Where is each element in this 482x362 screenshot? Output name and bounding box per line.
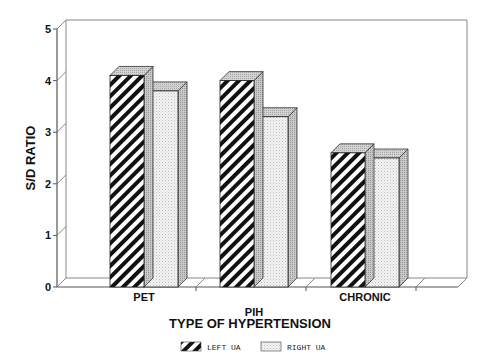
bar-group-pih <box>220 72 297 287</box>
legend-swatch <box>261 342 281 351</box>
legend-swatch <box>181 342 201 351</box>
legend-label: LEFT UA <box>207 343 241 352</box>
bar-group-pet <box>110 66 187 287</box>
bar-left-ua <box>331 144 374 287</box>
y-tick-label: 5 <box>45 23 51 35</box>
legend: LEFT UARIGHT UA <box>181 342 326 352</box>
y-axis-title: S/D RATIO <box>23 126 38 191</box>
legend-label: RIGHT UA <box>287 343 326 352</box>
legend-item-right-ua: RIGHT UA <box>261 342 326 352</box>
y-tick-label: 3 <box>45 126 51 138</box>
x-tick-label-pet: PET <box>133 291 155 303</box>
bars <box>110 66 408 287</box>
bar-chart: 012345 PETPIHCHRONIC S/D RATIO TYPE OF H… <box>0 0 482 362</box>
x-tick-label-chronic: CHRONIC <box>339 291 390 303</box>
y-axis: 012345 <box>45 20 66 293</box>
y-tick-label: 1 <box>45 229 51 241</box>
y-tick-label: 4 <box>45 75 52 87</box>
y-tick-label: 0 <box>45 281 51 293</box>
y-tick-label: 2 <box>45 178 51 190</box>
legend-item-left-ua: LEFT UA <box>181 342 241 352</box>
bar-left-ua <box>110 66 153 287</box>
bar-left-ua <box>220 72 263 287</box>
bar-group-chronic <box>331 144 408 287</box>
x-axis-title: TYPE OF HYPERTENSION <box>169 316 331 331</box>
